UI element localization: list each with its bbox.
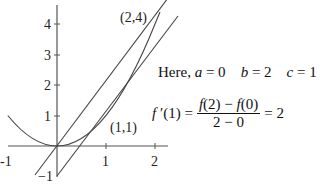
fraction: f(2) − f(0) 2 − 0 bbox=[197, 96, 260, 131]
y-tick-2: 2 bbox=[44, 78, 51, 93]
mean-value-equation: f ′(1) = f(2) − f(0) 2 − 0 = 2 bbox=[152, 96, 284, 131]
secant-line bbox=[35, 0, 168, 175]
parameters-text: Here, a = 0 b = 2 c = 1 bbox=[158, 64, 317, 81]
x-tick-2: 2 bbox=[151, 154, 158, 169]
y-tick-4: 4 bbox=[44, 17, 51, 32]
x-tick-neg1: -1 bbox=[0, 154, 12, 169]
x-tick-1: 1 bbox=[102, 154, 109, 169]
y-tick-1: 1 bbox=[44, 109, 51, 124]
point-label-2-4: (2,4) bbox=[120, 10, 147, 26]
function-plot: -1 1 2 4 3 2 1 −1 (2,4) (1,1) bbox=[0, 0, 324, 185]
point-label-1-1: (1,1) bbox=[110, 120, 137, 136]
parabola-curve bbox=[8, 12, 160, 146]
y-tick-neg1: −1 bbox=[38, 169, 53, 184]
y-tick-3: 3 bbox=[44, 48, 51, 63]
